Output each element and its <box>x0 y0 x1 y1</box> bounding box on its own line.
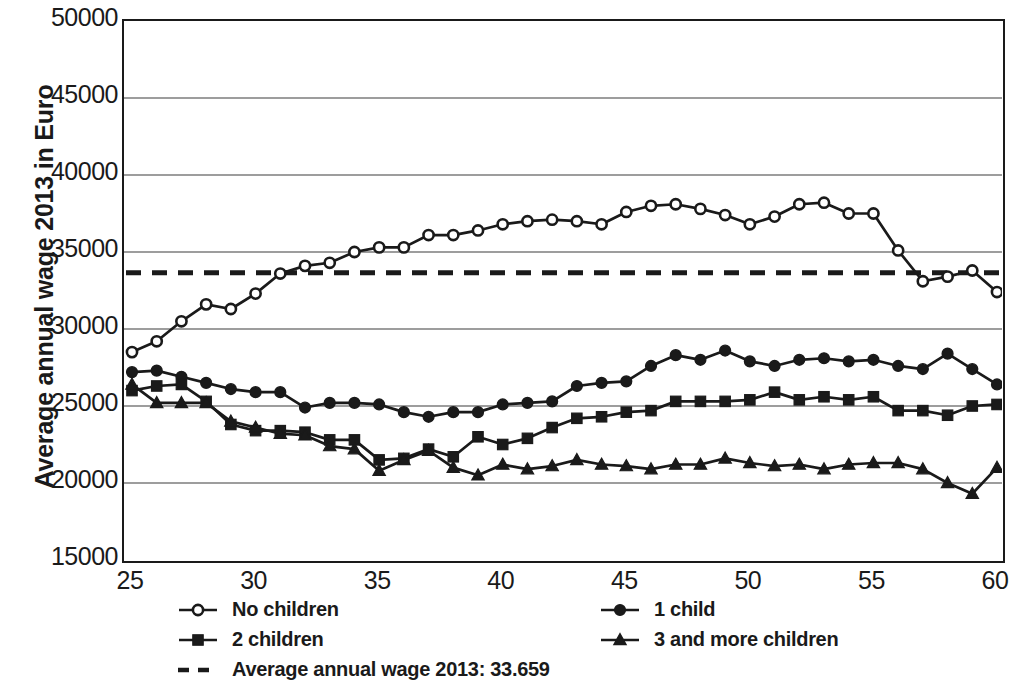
data-point-marker <box>596 378 607 389</box>
data-point-marker <box>621 407 631 417</box>
data-point-marker <box>670 350 681 361</box>
data-point-marker <box>547 215 557 225</box>
series-1-child <box>127 345 1002 422</box>
data-point-marker <box>497 399 508 410</box>
data-point-marker <box>868 354 879 365</box>
data-point-marker <box>374 242 384 252</box>
data-point-marker <box>547 422 557 432</box>
legend-item[interactable]: 3 and more children <box>598 628 838 651</box>
data-point-marker <box>300 402 311 413</box>
data-point-marker <box>571 381 582 392</box>
data-point-marker <box>571 454 583 465</box>
data-point-marker <box>621 376 632 387</box>
data-point-marker <box>176 379 186 389</box>
data-point-marker <box>719 452 731 463</box>
data-point-marker <box>794 395 804 405</box>
data-point-marker <box>151 365 162 376</box>
data-point-marker <box>671 396 681 406</box>
y-tick-label: 50000 <box>6 3 118 32</box>
data-point-marker <box>152 336 162 346</box>
data-point-marker <box>126 378 138 389</box>
data-point-marker <box>398 407 409 418</box>
y-tick-label: 40000 <box>6 157 118 186</box>
x-tick-label: 30 <box>240 566 267 595</box>
data-point-marker <box>473 225 483 235</box>
series-line <box>132 351 997 417</box>
data-point-marker <box>819 353 830 364</box>
chart-figure: Average annual wage 2013 in Euro 1500020… <box>0 0 1021 691</box>
data-point-marker <box>992 287 1002 297</box>
data-point-marker <box>745 219 755 229</box>
series-line <box>132 384 997 493</box>
data-point-marker <box>769 211 779 221</box>
data-point-marker <box>720 210 730 220</box>
data-point-marker <box>991 461 1002 472</box>
data-point-marker <box>967 401 977 411</box>
x-tick-label: 50 <box>734 566 761 595</box>
legend-item[interactable]: No children <box>176 598 339 621</box>
data-point-marker <box>843 356 854 367</box>
x-tick-label: 35 <box>364 566 391 595</box>
data-point-marker <box>646 405 656 415</box>
data-point-marker <box>868 208 878 218</box>
data-point-marker <box>423 411 434 422</box>
data-point-marker <box>646 201 656 211</box>
data-point-marker <box>893 405 903 415</box>
data-point-marker <box>695 204 705 214</box>
y-tick-label: 25000 <box>6 388 118 417</box>
data-point-marker <box>300 261 310 271</box>
data-point-marker <box>769 361 780 372</box>
open-circle-icon <box>176 600 224 620</box>
data-point-marker <box>744 356 755 367</box>
data-point-marker <box>201 299 211 309</box>
data-point-marker <box>671 199 681 209</box>
data-point-marker <box>942 410 952 420</box>
data-point-marker <box>498 219 508 229</box>
data-point-marker <box>992 399 1002 409</box>
data-point-marker <box>176 316 186 326</box>
data-point-marker <box>621 207 631 217</box>
legend-item[interactable]: Average annual wage 2013: 33.659 <box>176 658 550 681</box>
data-point-marker <box>498 439 508 449</box>
y-tick-label: 15000 <box>6 542 118 571</box>
data-point-marker <box>844 208 854 218</box>
data-point-marker <box>572 216 582 226</box>
data-point-marker <box>447 461 459 472</box>
data-point-marker <box>497 458 509 469</box>
data-point-marker <box>250 288 260 298</box>
plot-canvas <box>124 21 1002 560</box>
data-point-marker <box>349 247 359 257</box>
x-tick-label: 45 <box>611 566 638 595</box>
data-point-marker <box>893 245 903 255</box>
data-point-marker <box>893 361 904 372</box>
chart-legend: No children1 child2 children3 and more c… <box>0 596 1021 691</box>
data-point-marker <box>917 364 928 375</box>
y-tick-label: 45000 <box>6 80 118 109</box>
data-point-marker <box>941 477 953 488</box>
data-point-marker <box>522 216 532 226</box>
data-point-marker <box>769 387 779 397</box>
data-point-marker <box>967 265 977 275</box>
filled-circle-icon <box>598 600 646 620</box>
data-point-marker <box>423 230 433 240</box>
data-point-marker <box>967 364 978 375</box>
data-point-marker <box>596 219 606 229</box>
data-point-marker <box>547 396 558 407</box>
data-point-marker <box>225 384 236 395</box>
data-point-marker <box>720 345 731 356</box>
filled-square-icon <box>176 630 224 650</box>
y-tick-label: 20000 <box>6 465 118 494</box>
data-point-marker <box>226 304 236 314</box>
x-tick-label: 60 <box>982 566 1009 595</box>
x-tick-label: 55 <box>858 566 885 595</box>
legend-item-label: No children <box>232 598 339 621</box>
y-axis-tick-labels: 1500020000250003000035000400004500050000 <box>0 0 118 691</box>
data-point-marker <box>615 604 626 615</box>
data-point-marker <box>127 347 137 357</box>
data-point-marker <box>448 230 458 240</box>
legend-item[interactable]: 2 children <box>176 628 323 651</box>
y-tick-label: 30000 <box>6 311 118 340</box>
data-point-marker <box>127 367 138 378</box>
data-point-marker <box>193 634 203 644</box>
legend-item[interactable]: 1 child <box>598 598 715 621</box>
